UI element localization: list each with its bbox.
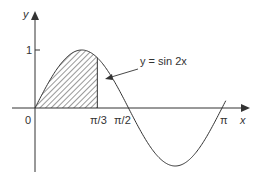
x-tick-label-pi-over-3: π/3 xyxy=(90,114,107,126)
shaded-area xyxy=(35,50,97,108)
y-axis-arrow-icon xyxy=(31,11,39,20)
label-pointer-arrow-icon xyxy=(105,74,113,80)
x-tick-label-0: 0 xyxy=(25,114,31,126)
y-axis-label: y xyxy=(22,8,30,20)
curve-equation-label: y = sin 2x xyxy=(140,55,187,67)
y-tick-label-1: 1 xyxy=(26,44,32,56)
x-axis-label: x xyxy=(239,114,246,126)
x-axis-arrow-icon xyxy=(241,104,250,112)
label-pointer-line xyxy=(108,69,138,78)
x-tick-label-pi-over-2: π/2 xyxy=(114,114,131,126)
sine-curve-diagram: y x 1 0 π/3 π/2 π y = sin 2x xyxy=(0,0,263,182)
x-tick-label-pi: π xyxy=(220,114,228,126)
